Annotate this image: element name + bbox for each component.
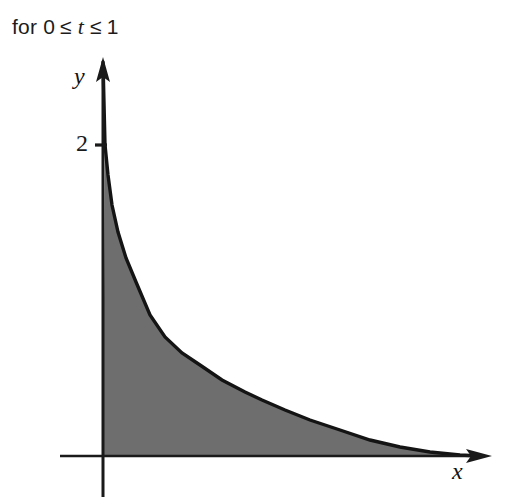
y-axis-label: y (74, 63, 85, 90)
caption-prefix: for 0 (12, 15, 55, 38)
caption-variable: t (77, 14, 85, 39)
caption-relation-2: ≤ (85, 15, 107, 38)
caption-upper-bound: 1 (107, 15, 119, 38)
caption-relation-1: ≤ (55, 15, 77, 38)
x-axis-label: x (452, 458, 463, 485)
caption-text: for 0≤t≤1 (12, 14, 119, 40)
shaded-region (103, 145, 480, 456)
y-tick-label-2: 2 (76, 130, 88, 157)
